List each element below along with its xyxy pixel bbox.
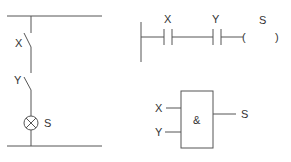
coil-s-label: S xyxy=(259,14,266,26)
ladder-diagram: X Y ( ) S xyxy=(141,13,279,62)
lamp-label: S xyxy=(44,117,51,129)
and-gate-diagram: X Y & S xyxy=(155,91,248,148)
coil-open-paren: ( xyxy=(242,31,246,43)
switch-y-label: Y xyxy=(14,74,22,86)
coil-close-paren: ) xyxy=(275,31,279,43)
output-s-label: S xyxy=(241,108,248,120)
switch-x-icon xyxy=(24,33,31,47)
input-x-label: X xyxy=(155,102,163,114)
series-circuit: X Y S xyxy=(7,16,102,146)
and-symbol: & xyxy=(193,114,201,126)
contact-y-icon xyxy=(213,29,221,45)
switch-x-label: X xyxy=(15,37,23,49)
contact-x-label: X xyxy=(164,13,172,25)
contact-x-icon xyxy=(164,29,172,45)
contact-y-label: Y xyxy=(212,13,220,25)
switch-y-icon xyxy=(24,77,31,90)
input-y-label: Y xyxy=(155,126,163,138)
lamp-icon xyxy=(24,116,38,130)
diagram-canvas: X Y S X Y ( ) S xyxy=(0,0,291,162)
